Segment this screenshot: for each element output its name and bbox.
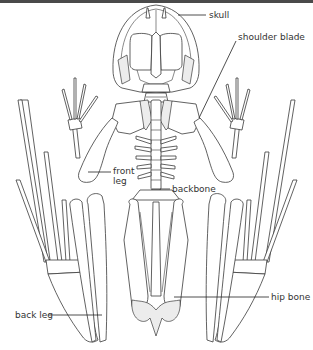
- label-backbone: backbone: [172, 184, 216, 194]
- skull-drawing: [113, 5, 199, 93]
- label-skull: skull: [209, 10, 229, 20]
- frog-skeleton-diagram: [0, 0, 313, 350]
- label-hip-bone: hip bone: [271, 292, 310, 302]
- label-back-leg: back leg: [15, 310, 53, 320]
- hip-bone-drawing: [124, 190, 188, 336]
- label-front-leg: front leg: [113, 166, 139, 186]
- label-shoulder-blade: shoulder blade: [238, 32, 305, 42]
